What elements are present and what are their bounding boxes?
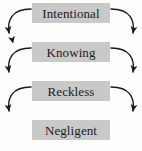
connector-right-reckless-negligent <box>111 87 133 111</box>
connector-right-intentional-knowing <box>111 9 133 33</box>
node-knowing: Knowing <box>32 42 110 62</box>
node-reckless-label: Reckless <box>47 85 94 98</box>
node-negligent: Negligent <box>32 120 110 140</box>
connector-left-knowing-reckless <box>9 48 31 72</box>
connector-left-intentional-knowing <box>9 9 31 33</box>
node-knowing-label: Knowing <box>46 46 95 59</box>
connector-right-knowing-reckless <box>111 48 133 72</box>
node-intentional-label: Intentional <box>42 7 99 20</box>
mental-states-hierarchy-diagram: Intentional Knowing Reckless Negligent <box>0 0 142 151</box>
node-intentional: Intentional <box>32 3 110 23</box>
node-reckless: Reckless <box>32 81 110 101</box>
connector-left-reckless-negligent <box>9 87 31 111</box>
node-negligent-label: Negligent <box>45 124 97 137</box>
